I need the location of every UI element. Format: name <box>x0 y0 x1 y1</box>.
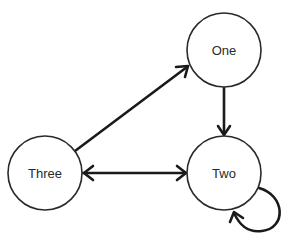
node-three-label: Three <box>28 166 62 181</box>
node-one-label: One <box>212 43 237 58</box>
node-two[interactable]: Two <box>187 136 261 210</box>
node-one[interactable]: One <box>187 13 261 87</box>
edge-three-two-bidirectional <box>83 166 186 180</box>
edge-one-to-two <box>218 88 230 135</box>
edge-three-to-one <box>75 66 188 151</box>
node-three[interactable]: Three <box>8 136 82 210</box>
state-diagram: One Two Three <box>0 0 292 241</box>
node-two-label: Two <box>212 166 236 181</box>
